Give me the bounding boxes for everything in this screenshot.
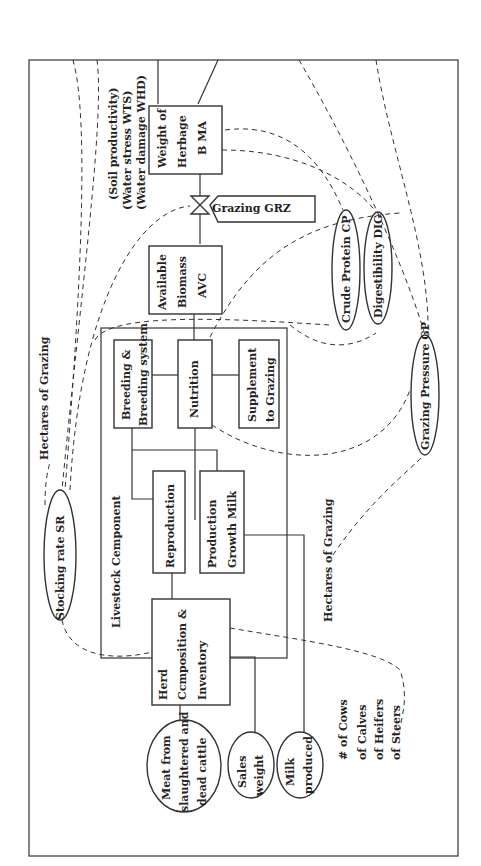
hectares-grazing-top: Hectares of Grazing (38, 336, 51, 460)
steers-label: of Steers (390, 705, 403, 760)
svg-text:Digestibility DIG: Digestibility DIG (372, 215, 385, 318)
svg-text:Milk: Milk (284, 757, 297, 786)
sales-output: Sales weight (228, 732, 274, 798)
water-damage-label: (Water damage WHD) (135, 75, 148, 210)
breeding-box: Breeding & Breeding system (114, 323, 152, 428)
milk-output: Milk produced (277, 732, 323, 798)
svg-text:Growth Milk: Growth Milk (226, 491, 239, 568)
svg-text:Stocking rate SR: Stocking rate SR (54, 515, 67, 620)
grazing-pressure: Grazing Pressure GP (411, 322, 439, 455)
available-biomass-stock: Available Biomass AVC (149, 246, 222, 314)
herbage-stock: Weight of Herbage B MA (149, 106, 222, 174)
supplement-box: Supplement to Grazing (239, 340, 279, 428)
svg-text:weight: weight (253, 754, 266, 797)
svg-text:slaughtered and: slaughtered and (178, 711, 191, 812)
production-box: Production Growth Milk (200, 471, 244, 573)
svg-text:Herd: Herd (157, 669, 170, 700)
svg-text:Supplement: Supplement (246, 347, 259, 422)
svg-text:dead cattle: dead cattle (196, 737, 209, 806)
svg-text:B MA: B MA (196, 121, 209, 155)
svg-text:Available: Available (156, 254, 169, 311)
svg-text:Ccmposition &: Ccmposition & (176, 609, 189, 700)
grazing-valve: Grazing GRZ (191, 196, 315, 222)
cows-label: # of Cows (337, 699, 350, 760)
crude-protein: Crude Protein CP (332, 210, 360, 330)
nutrition-box: Nutrition (178, 340, 212, 428)
svg-text:Reproduction: Reproduction (164, 484, 177, 568)
svg-text:Breeding &: Breeding & (120, 350, 133, 420)
svg-text:Meat from: Meat from (160, 735, 173, 800)
svg-text:Production: Production (206, 500, 219, 568)
heifers-label: of Heifers (373, 699, 386, 760)
svg-text:Weight of: Weight of (156, 107, 169, 169)
svg-text:Grazing GRZ: Grazing GRZ (212, 202, 291, 215)
system-dynamics-diagram: (Soil productivity) (Water stress WTS) (… (0, 0, 481, 866)
hectares-grazing-bottom: Hectares of Grazing (322, 498, 335, 622)
reproduction-box: Reproduction (153, 471, 185, 573)
svg-text:Inventory: Inventory (196, 640, 209, 700)
svg-text:Crude Protein CP: Crude Protein CP (340, 215, 353, 323)
svg-text:Biomass: Biomass (176, 256, 189, 308)
svg-text:Grazing Pressure GP: Grazing Pressure GP (419, 322, 432, 450)
calves-label: of Calves (356, 704, 369, 760)
meat-output: Meat from slaughtered and dead cattle (147, 711, 221, 812)
svg-text:Sales: Sales (236, 756, 249, 788)
svg-text:Herbage: Herbage (176, 115, 189, 168)
svg-text:produced: produced (302, 736, 315, 794)
digestibility: Digestibility DIG (364, 212, 392, 324)
water-stress-label: (Water stress WTS) (121, 91, 134, 210)
stocking-rate: Stocking rate SR (44, 490, 76, 620)
svg-text:to Grazing: to Grazing (264, 357, 277, 422)
input-arrow-2 (198, 60, 218, 104)
svg-text:Nutrition: Nutrition (188, 360, 201, 418)
livestock-component-title: Livestock Cemponent (110, 495, 123, 628)
svg-text:AVC: AVC (196, 273, 209, 299)
herd-box: Herd Ccmposition & Inventory (152, 599, 230, 705)
soil-productivity-label: (Soil productivity) (107, 88, 120, 200)
svg-text:Breeding system: Breeding system (137, 323, 150, 426)
